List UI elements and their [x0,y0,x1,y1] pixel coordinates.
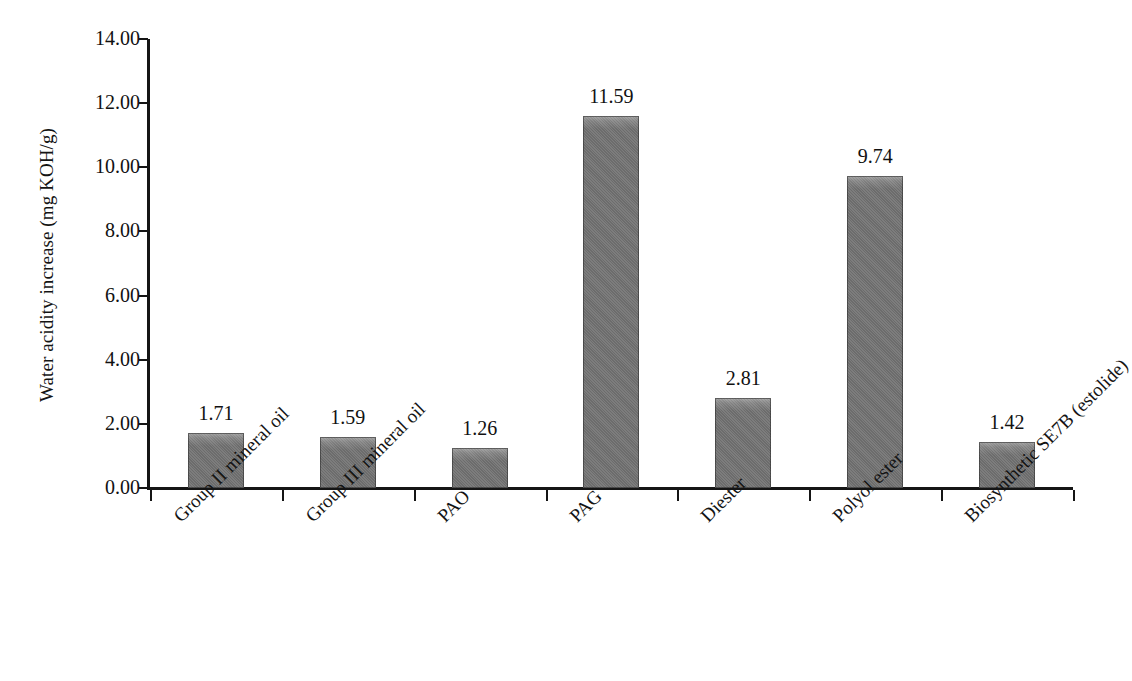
x-axis-category-label: Biosynthetic SE7B (estolide) [961,355,1131,525]
x-axis-category-label: Diester [697,473,749,525]
x-axis-category-label: Polyol ester [829,448,906,525]
x-axis-category-label: PAG [566,486,605,525]
x-axis-category-label: Group III mineral oil [302,399,428,525]
x-axis-category-label: Group II mineral oil [170,403,292,525]
x-axis-category-label: PAO [434,486,473,525]
